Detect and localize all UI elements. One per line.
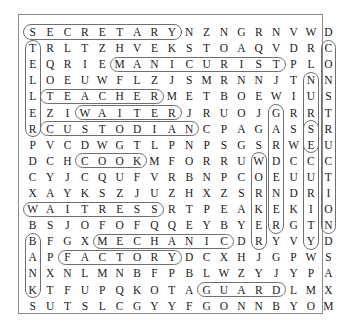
- grid-cell[interactable]: D: [233, 233, 250, 249]
- grid-cell[interactable]: E: [267, 169, 284, 185]
- grid-cell[interactable]: T: [128, 104, 145, 120]
- grid-cell[interactable]: W: [215, 265, 232, 281]
- grid-cell[interactable]: C: [76, 153, 93, 169]
- grid-cell[interactable]: C: [233, 169, 250, 185]
- grid-cell[interactable]: A: [41, 201, 58, 217]
- grid-cell[interactable]: L: [24, 72, 41, 88]
- grid-cell[interactable]: I: [198, 233, 215, 249]
- grid-cell[interactable]: O: [111, 121, 128, 137]
- grid-cell[interactable]: Q: [250, 40, 267, 56]
- grid-cell[interactable]: A: [94, 104, 111, 120]
- grid-cell[interactable]: O: [320, 201, 337, 217]
- grid-cell[interactable]: A: [181, 282, 198, 298]
- grid-cell[interactable]: G: [250, 121, 267, 137]
- grid-cell[interactable]: T: [198, 40, 215, 56]
- grid-cell[interactable]: T: [94, 121, 111, 137]
- grid-cell[interactable]: E: [111, 233, 128, 249]
- grid-cell[interactable]: L: [94, 298, 111, 314]
- grid-cell[interactable]: E: [146, 104, 163, 120]
- grid-cell[interactable]: S: [302, 121, 319, 137]
- grid-cell[interactable]: R: [302, 185, 319, 201]
- grid-cell[interactable]: B: [24, 233, 41, 249]
- grid-cell[interactable]: T: [41, 88, 58, 104]
- grid-cell[interactable]: S: [250, 137, 267, 153]
- grid-cell[interactable]: D: [181, 249, 198, 265]
- grid-cell[interactable]: G: [198, 282, 215, 298]
- grid-cell[interactable]: K: [128, 153, 145, 169]
- grid-cell[interactable]: S: [24, 298, 41, 314]
- grid-cell[interactable]: X: [215, 249, 232, 265]
- grid-cell[interactable]: K: [76, 185, 93, 201]
- grid-cell[interactable]: L: [285, 282, 302, 298]
- grid-cell[interactable]: U: [285, 169, 302, 185]
- grid-cell[interactable]: O: [233, 88, 250, 104]
- grid-cell[interactable]: R: [215, 72, 232, 88]
- grid-cell[interactable]: R: [320, 121, 337, 137]
- grid-cell[interactable]: S: [181, 72, 198, 88]
- grid-cell[interactable]: F: [128, 217, 145, 233]
- grid-cell[interactable]: U: [302, 169, 319, 185]
- grid-cell[interactable]: M: [146, 153, 163, 169]
- grid-cell[interactable]: Q: [163, 217, 180, 233]
- grid-cell[interactable]: T: [41, 282, 58, 298]
- grid-cell[interactable]: N: [59, 265, 76, 281]
- grid-cell[interactable]: Y: [250, 265, 267, 281]
- grid-cell[interactable]: R: [146, 249, 163, 265]
- grid-cell[interactable]: D: [267, 153, 284, 169]
- grid-cell[interactable]: E: [181, 88, 198, 104]
- grid-cell[interactable]: O: [233, 104, 250, 120]
- grid-cell[interactable]: E: [94, 56, 111, 72]
- grid-cell[interactable]: P: [198, 137, 215, 153]
- grid-cell[interactable]: N: [111, 265, 128, 281]
- grid-cell[interactable]: C: [181, 56, 198, 72]
- grid-cell[interactable]: K: [24, 282, 41, 298]
- grid-cell[interactable]: E: [94, 24, 111, 40]
- grid-cell[interactable]: A: [76, 249, 93, 265]
- grid-cell[interactable]: L: [76, 265, 93, 281]
- grid-cell[interactable]: E: [24, 104, 41, 120]
- grid-cell[interactable]: N: [24, 265, 41, 281]
- grid-cell[interactable]: F: [94, 217, 111, 233]
- grid-cell[interactable]: T: [181, 201, 198, 217]
- grid-cell[interactable]: F: [41, 233, 58, 249]
- grid-cell[interactable]: B: [128, 265, 145, 281]
- grid-cell[interactable]: R: [215, 153, 232, 169]
- grid-cell[interactable]: F: [163, 153, 180, 169]
- grid-cell[interactable]: C: [198, 121, 215, 137]
- grid-cell[interactable]: M: [94, 265, 111, 281]
- grid-cell[interactable]: E: [111, 201, 128, 217]
- grid-cell[interactable]: I: [320, 185, 337, 201]
- grid-cell[interactable]: S: [76, 298, 93, 314]
- grid-cell[interactable]: J: [250, 249, 267, 265]
- grid-cell[interactable]: G: [128, 298, 145, 314]
- grid-cell[interactable]: H: [181, 185, 198, 201]
- grid-cell[interactable]: N: [146, 56, 163, 72]
- grid-cell[interactable]: S: [320, 88, 337, 104]
- grid-cell[interactable]: C: [76, 169, 93, 185]
- grid-cell[interactable]: K: [250, 201, 267, 217]
- grid-cell[interactable]: J: [267, 72, 284, 88]
- grid-cell[interactable]: S: [94, 185, 111, 201]
- grid-cell[interactable]: T: [76, 40, 93, 56]
- grid-cell[interactable]: W: [24, 201, 41, 217]
- grid-cell[interactable]: D: [128, 121, 145, 137]
- grid-cell[interactable]: T: [267, 56, 284, 72]
- grid-cell[interactable]: O: [302, 298, 319, 314]
- grid-cell[interactable]: U: [76, 72, 93, 88]
- grid-cell[interactable]: D: [267, 282, 284, 298]
- grid-cell[interactable]: H: [59, 153, 76, 169]
- grid-cell[interactable]: U: [41, 298, 58, 314]
- grid-cell[interactable]: J: [59, 217, 76, 233]
- grid-cell[interactable]: U: [320, 137, 337, 153]
- grid-cell[interactable]: D: [285, 185, 302, 201]
- grid-cell[interactable]: N: [215, 24, 232, 40]
- grid-cell[interactable]: N: [181, 24, 198, 40]
- grid-cell[interactable]: G: [198, 298, 215, 314]
- grid-cell[interactable]: S: [320, 249, 337, 265]
- grid-cell[interactable]: R: [250, 24, 267, 40]
- grid-cell[interactable]: O: [94, 153, 111, 169]
- grid-cell[interactable]: C: [111, 298, 128, 314]
- grid-cell[interactable]: C: [285, 153, 302, 169]
- grid-cell[interactable]: T: [24, 40, 41, 56]
- grid-cell[interactable]: Y: [59, 185, 76, 201]
